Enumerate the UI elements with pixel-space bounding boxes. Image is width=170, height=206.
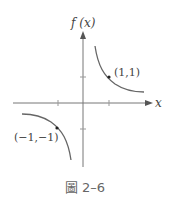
chart-canvas: f (x) x (1,1) (−1,−1)	[0, 0, 170, 206]
x-axis-label: x	[155, 96, 162, 110]
point-neg1-neg1	[55, 126, 58, 129]
y-axis-label: f (x)	[70, 16, 96, 30]
point-1-1	[107, 75, 110, 78]
point-label-neg1-neg1: (−1,−1)	[14, 131, 59, 144]
y-axis-arrow-icon	[80, 31, 86, 39]
x-axis-arrow-icon	[145, 100, 153, 106]
figure-caption: 圖 2–6	[0, 177, 170, 196]
point-label-1-1: (1,1)	[114, 66, 140, 79]
